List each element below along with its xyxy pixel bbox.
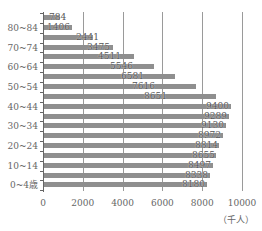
bar <box>44 74 175 79</box>
y-category-label: 80~84 <box>0 23 38 33</box>
y-category-label: 10~14 <box>0 161 38 171</box>
y-tick <box>40 141 43 142</box>
y-tick <box>40 62 43 63</box>
bar <box>44 133 223 138</box>
y-tick <box>40 43 43 44</box>
y-category-label: 40~44 <box>0 102 38 112</box>
bar-value-label: 8972 <box>198 131 221 140</box>
bar-value-label: 784 <box>49 13 66 22</box>
population-bar-chart: 0200040006000800010000（千人）784140680~8424… <box>0 0 262 231</box>
y-tick <box>40 121 43 122</box>
x-tick-label: 4000 <box>111 198 134 208</box>
y-category-label: 20~24 <box>0 141 38 151</box>
bar-value-label: 9400 <box>206 102 229 111</box>
bar-value-label: 8814 <box>195 141 218 150</box>
y-tick <box>40 180 43 181</box>
y-tick <box>40 102 43 103</box>
y-category-label: 50~54 <box>0 82 38 92</box>
y-tick <box>40 52 43 53</box>
y-tick <box>40 82 43 83</box>
y-tick <box>40 161 43 162</box>
bar <box>44 84 196 89</box>
y-category-label: 30~34 <box>0 121 38 131</box>
y-tick <box>40 131 43 132</box>
bar-value-label: 8180 <box>182 180 205 189</box>
bar-value-label: 8655 <box>192 151 215 160</box>
bar <box>44 104 231 109</box>
y-tick <box>40 151 43 152</box>
unit-label: （千人） <box>218 213 254 226</box>
bar-value-label: 6581 <box>121 72 144 81</box>
bar <box>44 94 216 99</box>
bar-value-label: 8497 <box>188 161 211 170</box>
y-tick <box>40 190 43 191</box>
y-tick <box>40 171 43 172</box>
bar-value-label: 7616 <box>132 82 155 91</box>
y-category-label: 0~4歳 <box>0 180 38 190</box>
bar-value-label: 2441 <box>76 33 99 42</box>
bar <box>44 64 154 69</box>
bar-value-label: 8651 <box>144 92 167 101</box>
gridline <box>242 12 243 191</box>
x-tick-label: 6000 <box>151 198 174 208</box>
y-tick <box>40 33 43 34</box>
bar-value-label: 9130 <box>201 121 224 130</box>
y-tick <box>40 92 43 93</box>
x-tick-label: 10000 <box>228 198 257 208</box>
y-tick <box>40 72 43 73</box>
x-tick-label: 0 <box>40 198 46 208</box>
bar <box>44 114 229 119</box>
x-tick-label: 2000 <box>71 198 94 208</box>
bar <box>44 123 226 128</box>
bar <box>44 153 216 158</box>
y-category-label: 70~74 <box>0 43 38 53</box>
bar-value-label: 4511 <box>98 52 121 61</box>
bar-value-label: 1406 <box>47 23 70 32</box>
y-tick <box>40 23 43 24</box>
bar-value-label: 5546 <box>110 62 133 71</box>
y-tick <box>40 112 43 113</box>
y-category-label: 60~64 <box>0 62 38 72</box>
x-tick-label: 8000 <box>191 198 214 208</box>
bar <box>44 143 219 148</box>
y-tick <box>40 13 43 14</box>
